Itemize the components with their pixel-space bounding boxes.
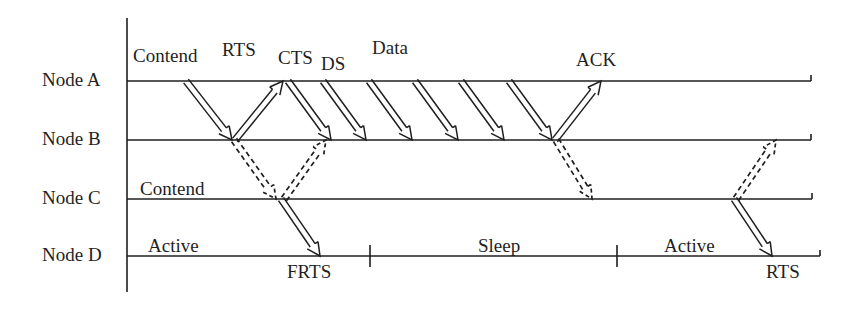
arrow-data-4-a-to-b (459, 79, 504, 140)
arrow-ack-b-to-a (553, 81, 601, 142)
label-data: Data (372, 38, 408, 57)
dashed-c-to-b-rts (734, 140, 776, 201)
label-ack: ACK (576, 50, 616, 69)
node-label-b: Node B (42, 129, 101, 148)
node-label-d: Node D (42, 245, 102, 264)
dashed-b-to-c-rts (232, 138, 276, 199)
arrow-data-3-a-to-b (413, 79, 458, 140)
label-sleep: Sleep (478, 236, 520, 255)
dashed-b-to-c-ack (553, 138, 592, 199)
node-label-a: Node A (42, 70, 101, 89)
arrow-data-5-a-to-b (507, 79, 552, 140)
label-contend-c: Contend (140, 179, 204, 198)
node-label-c: Node C (42, 188, 101, 207)
timing-diagram: Node ANode BNode CNode DContendRTSCTSDSD… (0, 0, 858, 312)
arrow-data-2-a-to-b (367, 79, 412, 140)
label-rts: RTS (222, 40, 256, 59)
arrow-rts-c-to-d (732, 197, 772, 256)
label-frts: FRTS (287, 262, 331, 281)
label-rts-bottom: RTS (766, 262, 800, 281)
arrow-data-1-a-to-b (321, 79, 366, 140)
label-contend-a: Contend (133, 46, 197, 65)
label-active-2: Active (664, 236, 715, 255)
label-cts: CTS (278, 48, 313, 67)
label-active-1: Active (148, 236, 199, 255)
arrow-cts-b-to-a (233, 81, 283, 142)
label-ds: DS (321, 54, 345, 73)
diagram-canvas (0, 0, 858, 312)
dashed-c-to-b-cts (282, 140, 326, 201)
arrow-frts-c-to-d (279, 197, 320, 256)
arrow-rts-a-to-b (184, 79, 232, 140)
